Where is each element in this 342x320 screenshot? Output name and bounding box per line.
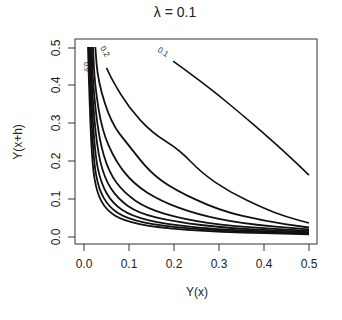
x-tick-label: 0.1 bbox=[121, 257, 138, 271]
x-tick-label: 0.0 bbox=[76, 257, 93, 271]
y-tick-label: 0.4 bbox=[49, 76, 63, 93]
contour-line bbox=[89, 47, 309, 234]
x-tick-label: 0.5 bbox=[301, 257, 318, 271]
contour-line bbox=[107, 68, 310, 223]
x-tick-label: 0.4 bbox=[256, 257, 273, 271]
contour-label: 0.9 bbox=[83, 62, 90, 72]
contour-lines: 0.10.20.9 bbox=[83, 45, 309, 235]
contour-chart: λ = 0.1 0.10.20.9 0.00.10.20.30.40.5 0.0… bbox=[0, 0, 342, 320]
contour-line bbox=[88, 47, 309, 234]
y-tick-label: 0.1 bbox=[49, 190, 63, 207]
x-axis: 0.00.10.20.30.40.5 bbox=[76, 244, 318, 271]
contour-line bbox=[90, 47, 309, 233]
y-axis: 0.00.10.20.30.40.5 bbox=[49, 39, 75, 245]
y-tick-label: 0.2 bbox=[49, 152, 63, 169]
chart-title: λ = 0.1 bbox=[154, 4, 197, 20]
contour-line bbox=[95, 47, 309, 228]
contour-line bbox=[173, 61, 309, 175]
contour-label: 0.1 bbox=[156, 45, 171, 59]
y-axis-label: Y(x+h) bbox=[11, 124, 25, 160]
y-tick-label: 0.0 bbox=[49, 228, 63, 245]
x-tick-label: 0.2 bbox=[166, 257, 183, 271]
x-tick-label: 0.3 bbox=[211, 257, 228, 271]
contour-label: 0.2 bbox=[98, 45, 112, 60]
y-tick-label: 0.3 bbox=[49, 114, 63, 131]
y-tick-label: 0.5 bbox=[49, 39, 63, 56]
x-axis-label: Y(x) bbox=[186, 285, 208, 299]
